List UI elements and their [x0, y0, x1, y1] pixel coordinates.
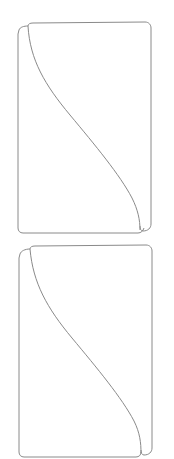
bottom-panel-s-curve	[30, 249, 141, 453]
top-panel-s-curve	[28, 26, 140, 230]
top-panel-left-piece	[18, 26, 144, 233]
bottom-panel-right-piece	[30, 245, 152, 455]
top-panel	[18, 22, 151, 233]
bottom-panel	[19, 245, 152, 457]
bottom-panel-left-piece	[19, 249, 141, 457]
diagram-canvas	[0, 0, 174, 459]
